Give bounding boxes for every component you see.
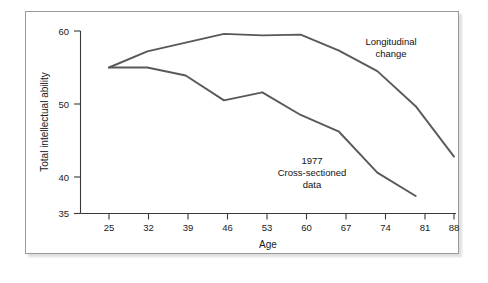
x-tick-label-53: 53 [262,222,273,233]
y-tick-label-40: 40 [58,172,69,183]
cross-sectioned-annotation-line2: Cross-sectioned [278,167,347,178]
x-tick-label-74: 74 [380,222,391,233]
y-axis-ticks [74,31,81,214]
longitudinal-annotation-line1: Longitudinal [365,36,416,47]
line-chart: 60 50 40 35 Total intellectual ability 2… [26,12,460,255]
cross-sectioned-annotation-line3: data [303,179,322,190]
figure-frame: 60 50 40 35 Total intellectual ability 2… [25,11,459,254]
x-tick-label-46: 46 [222,222,233,233]
longitudinal-annotation-line2: change [375,48,406,59]
longitudinal-annotation: Longitudinal change [365,36,416,59]
x-tick-label-60: 60 [301,222,312,233]
x-axis-title: Age [259,239,277,250]
x-tick-label-88: 88 [449,222,460,233]
y-axis-title: Total intellectual ability [39,72,50,172]
x-axis-ticks [109,214,454,220]
x-tick-label-67: 67 [341,222,352,233]
y-tick-label-35: 35 [58,208,69,219]
x-tick-label-81: 81 [420,222,431,233]
x-tick-label-32: 32 [143,222,154,233]
series-line-cross-sectioned [109,68,416,196]
cross-sectioned-annotation-line1: 1977 [301,155,322,166]
x-tick-label-25: 25 [104,222,115,233]
y-tick-label-50: 50 [58,99,69,110]
cross-sectioned-annotation: 1977 Cross-sectioned data [278,155,347,190]
y-tick-label-60: 60 [58,26,69,37]
x-tick-label-39: 39 [183,222,194,233]
